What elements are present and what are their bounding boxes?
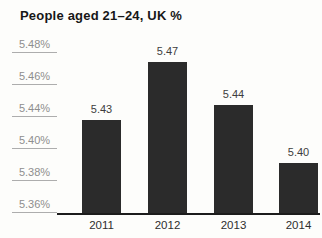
bar-chart: People aged 21–24, UK % 5.48%5.46%5.44%5… [0, 0, 322, 238]
y-tick-label: 5.48% [12, 38, 57, 53]
y-tick-label: 5.44% [12, 102, 57, 117]
bar-value-label: 5.47 [148, 45, 188, 57]
bar-value-label: 5.40 [279, 146, 319, 158]
x-tick-label: 2012 [146, 219, 190, 231]
bar-2011 [82, 120, 121, 213]
bar-2012 [148, 62, 187, 213]
bar-2013 [214, 105, 253, 213]
x-tick-label: 2014 [277, 219, 321, 231]
bar-2014 [279, 163, 318, 213]
bar-value-label: 5.43 [82, 103, 122, 115]
y-tick-label: 5.40% [12, 134, 57, 149]
y-tick-label: 5.36% [12, 198, 57, 213]
bar-value-label: 5.44 [214, 88, 254, 100]
y-tick-label: 5.46% [12, 70, 57, 85]
x-tick-label: 2013 [212, 219, 256, 231]
x-tick-label: 2011 [80, 219, 124, 231]
y-tick-label: 5.38% [12, 166, 57, 181]
x-axis-line [57, 213, 320, 215]
chart-title: People aged 21–24, UK % [20, 8, 182, 23]
